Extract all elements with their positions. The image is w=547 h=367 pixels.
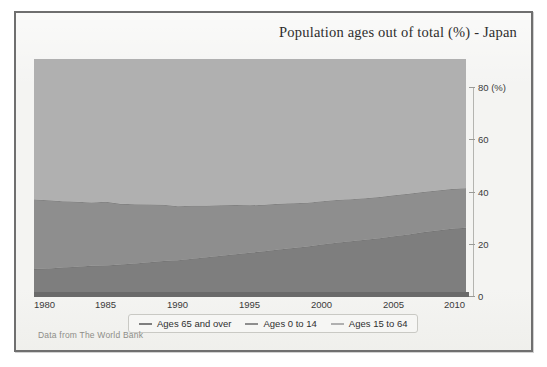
area-band-3 xyxy=(34,59,466,206)
legend-item-1[interactable]: Ages 65 and over xyxy=(139,318,231,329)
y-tick-label: 40 xyxy=(478,186,489,197)
x-tick-label: 1990 xyxy=(167,299,188,310)
x-tick-label: 2010 xyxy=(444,299,465,310)
legend-label: Ages 15 to 64 xyxy=(349,318,408,329)
legend-swatch-icon xyxy=(245,323,258,325)
legend-swatch-icon xyxy=(331,323,344,325)
chart-legend: Ages 65 and overAges 0 to 14Ages 15 to 6… xyxy=(128,314,418,333)
chart-card: Population ages out of total (%) - Japan… xyxy=(14,11,533,352)
y-tick-mark xyxy=(469,139,475,140)
area-series-group xyxy=(34,59,466,296)
legend-swatch-icon xyxy=(139,323,152,325)
y-tick-mark xyxy=(469,296,475,297)
plot-area xyxy=(34,59,466,296)
y-tick-label: 20 xyxy=(478,238,489,249)
stacked-area-chart xyxy=(34,59,466,296)
page-title: Population ages out of total (%) - Japan xyxy=(279,24,517,41)
y-tick-mark xyxy=(469,244,475,245)
x-tick-label: 1995 xyxy=(239,299,260,310)
x-tick-label: 1980 xyxy=(34,299,55,310)
x-tick-label: 2000 xyxy=(311,299,332,310)
legend-label: Ages 0 to 14 xyxy=(263,318,316,329)
legend-label: Ages 65 and over xyxy=(157,318,231,329)
y-tick-mark xyxy=(469,192,475,193)
source-note: Data from The World Bank xyxy=(38,330,143,340)
y-tick-mark xyxy=(469,87,475,88)
y-tick-label: 80 (%) xyxy=(478,82,506,93)
screenshot-root: Population ages out of total (%) - Japan… xyxy=(0,0,547,367)
x-tick-label: 2005 xyxy=(383,299,404,310)
legend-item-2[interactable]: Ages 0 to 14 xyxy=(245,318,316,329)
y-tick-label: 60 xyxy=(478,134,489,145)
legend-item-3[interactable]: Ages 15 to 64 xyxy=(331,318,408,329)
x-tick-group: 1980198519901995200020052010 xyxy=(16,299,535,313)
x-axis-line xyxy=(34,292,469,297)
x-tick-label: 1985 xyxy=(95,299,116,310)
y-axis: 020406080 (%) xyxy=(466,59,536,296)
